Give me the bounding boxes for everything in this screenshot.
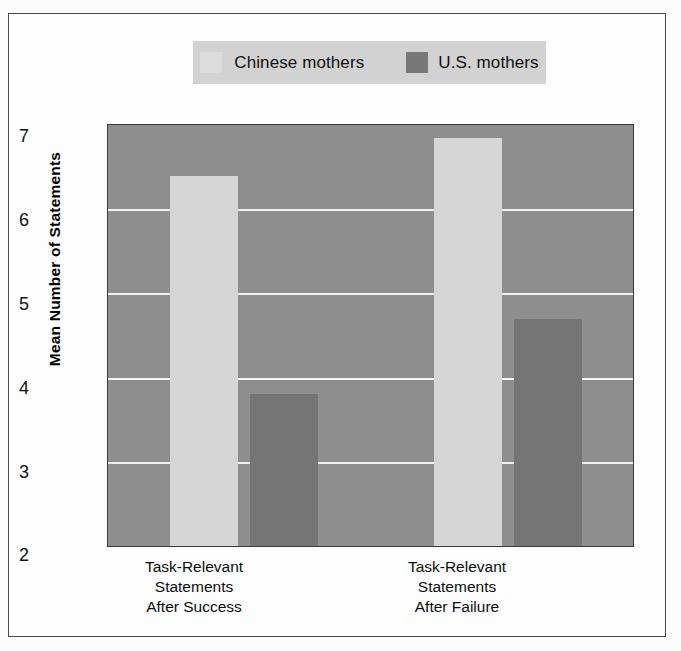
legend-entry-us-mothers: U.S. mothers	[406, 52, 538, 73]
y-tick-label-4: 4	[0, 378, 29, 399]
y-tick-label-6: 6	[0, 210, 29, 231]
legend-swatch-chinese-icon	[200, 52, 222, 73]
legend-label-us-mothers: U.S. mothers	[438, 53, 538, 73]
x-axis-label-group-2-line-3: After Failure	[347, 597, 567, 617]
x-axis-label-group-1-line-3: After Success	[84, 597, 304, 617]
y-tick-label-7: 7	[0, 126, 29, 147]
legend-label-chinese-mothers: Chinese mothers	[234, 53, 364, 73]
x-axis-label-group-2-line-1: Task-Relevant	[347, 557, 567, 577]
bar-chinese-mothers-after-success[interactable]	[170, 176, 238, 546]
x-axis-label-group-1-line-1: Task-Relevant	[84, 557, 304, 577]
y-tick-label-3: 3	[0, 462, 29, 483]
bar-us-mothers-after-failure[interactable]	[514, 319, 582, 546]
legend-swatch-us-icon	[406, 52, 428, 73]
x-axis-label-group-2-line-2: Statements	[347, 577, 567, 597]
bar-chinese-mothers-after-failure[interactable]	[434, 138, 502, 546]
bar-us-mothers-after-success[interactable]	[250, 394, 318, 546]
legend-entry-chinese-mothers: Chinese mothers	[200, 52, 364, 73]
x-axis-label-group-2: Task-Relevant Statements After Failure	[347, 557, 567, 616]
y-tick-label-5: 5	[0, 294, 29, 315]
x-axis-label-group-1-line-2: Statements	[84, 577, 304, 597]
plot-area	[107, 124, 634, 547]
chart-legend: Chinese mothers U.S. mothers	[193, 41, 546, 84]
figure-frame: Chinese mothers U.S. mothers Mean Number…	[8, 13, 666, 637]
y-axis-title: Mean Number of Statements	[46, 129, 64, 389]
y-tick-label-2: 2	[0, 545, 29, 566]
x-axis-label-group-1: Task-Relevant Statements After Success	[84, 557, 304, 616]
